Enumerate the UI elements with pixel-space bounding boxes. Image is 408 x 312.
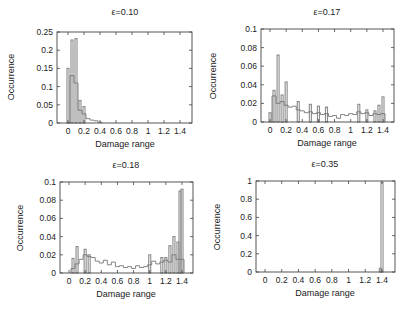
plot-area: 00.20.40.60.811.21.400.050.10.150.20.25 [36, 27, 192, 136]
x-tick-label: 1.2 [158, 126, 170, 136]
x-tick-label: 0.6 [313, 125, 325, 135]
x-tick-label: 0.2 [276, 275, 288, 285]
y-tick-label: 0.05 [36, 100, 53, 110]
x-axis-label: Damage range [295, 288, 355, 298]
x-tick-label: 0 [66, 126, 71, 136]
x-tick-label: 1.2 [359, 275, 371, 285]
x-tick-label: 1.2 [160, 276, 172, 286]
y-tick-label: 0.1 [44, 177, 56, 187]
x-tick-label: 1 [147, 276, 152, 286]
y-tick-label: 0.08 [39, 195, 56, 205]
y-tick-label: 0.02 [39, 250, 56, 260]
panel-eps-0-35: ε=0.35 Occurrence Damage range 00.20.40.… [212, 159, 395, 298]
y-axis-label: Occurrence [6, 54, 16, 101]
y-tick-label: 0.15 [36, 63, 53, 73]
x-tick-label: 0.2 [78, 126, 90, 136]
x-tick-label: 0.6 [112, 276, 124, 286]
x-tick-label: 0.6 [110, 126, 122, 136]
y-tick-label: 1 [247, 176, 252, 186]
panel-title: ε=0.18 [113, 160, 140, 170]
histogram-bar [309, 104, 311, 122]
panel-eps-0-10: ε=0.10 Occurrence Damage range 00.20.40.… [6, 7, 192, 149]
y-tick-label: 0.8 [240, 194, 252, 204]
y-axis-label: Occurrence [15, 205, 25, 252]
histogram-bar [358, 104, 360, 122]
x-tick-label: 1.4 [176, 276, 188, 286]
x-tick-label: 0.4 [293, 275, 305, 285]
y-axis-label: Occurrence [208, 53, 218, 100]
y-tick-label: 0.4 [240, 231, 252, 241]
histogram-bar [169, 246, 171, 273]
panel-eps-0-18: ε=0.18 Occurrence Damage range 00.20.40.… [15, 160, 193, 299]
panel-title: ε=0.17 [314, 7, 341, 17]
y-tick-label: 0.6 [240, 212, 252, 222]
y-axis-label: Occurrence [212, 204, 222, 251]
y-tick-label: 0.1 [41, 82, 53, 92]
histogram-bar [325, 107, 327, 122]
histogram-bar [379, 268, 381, 272]
x-tick-label: 0 [268, 125, 273, 135]
x-tick-label: 1.4 [376, 275, 388, 285]
histogram-bar [382, 97, 384, 122]
plot-area: 00.20.40.60.811.21.400.020.040.060.080.1 [39, 177, 193, 286]
x-tick-label: 0.4 [95, 276, 107, 286]
panel-title: ε=0.35 [312, 159, 339, 169]
x-tick-label: 1 [346, 275, 351, 285]
y-tick-label: 0.04 [39, 232, 56, 242]
y-tick-label: 0.2 [41, 45, 53, 55]
x-tick-label: 0.4 [94, 126, 106, 136]
y-tick-label: 0.06 [39, 213, 56, 223]
histogram-bar [79, 100, 81, 123]
histogram-bar [67, 68, 69, 123]
plot-area: 00.20.40.60.811.21.400.20.40.60.81 [240, 176, 395, 285]
histogram-bar [277, 55, 279, 122]
x-tick-label: 0.4 [296, 125, 308, 135]
x-tick-label: 0 [67, 276, 72, 286]
histogram-bar [374, 111, 376, 122]
x-tick-label: 1.4 [377, 125, 389, 135]
y-tick-label: 0 [51, 268, 56, 278]
x-axis-label: Damage range [95, 139, 155, 149]
x-tick-label: 0.8 [126, 126, 138, 136]
y-tick-label: 0.2 [240, 249, 252, 259]
x-tick-label: 1.4 [174, 126, 186, 136]
histogram-bar [285, 82, 287, 122]
histogram-bar [281, 95, 283, 122]
y-tick-label: 0 [48, 118, 53, 128]
x-tick-label: 0 [263, 275, 268, 285]
histogram-bar [378, 105, 380, 122]
histogram-bar [76, 247, 78, 273]
histogram-bar [88, 255, 90, 273]
y-tick-label: 0.04 [240, 80, 257, 90]
x-tick-label: 0.2 [280, 125, 292, 135]
figure-canvas: ε=0.10 Occurrence Damage range 00.20.40.… [0, 0, 408, 312]
histogram-bar [273, 90, 275, 122]
y-tick-label: 0.06 [240, 61, 257, 71]
histogram-bar [84, 249, 86, 273]
x-tick-label: 1.2 [361, 125, 373, 135]
plot-area: 00.20.40.60.811.21.400.020.040.060.080.1 [240, 24, 394, 135]
histogram-bar [71, 40, 73, 123]
y-tick-label: 0.02 [240, 98, 257, 108]
y-tick-label: 0.08 [240, 43, 257, 53]
histogram-bar [75, 39, 77, 123]
x-axis-label: Damage range [96, 289, 156, 299]
y-tick-label: 0 [252, 117, 257, 127]
plot-frame [256, 181, 395, 272]
histogram-bar [161, 258, 163, 273]
histogram-bar [381, 182, 383, 272]
x-tick-label: 0.2 [79, 276, 91, 286]
histogram-bar [297, 102, 299, 122]
x-tick-label: 0.8 [128, 276, 140, 286]
y-tick-label: 0 [247, 267, 252, 277]
histogram-bar [72, 258, 74, 273]
x-tick-label: 0.8 [329, 125, 341, 135]
x-tick-label: 0.6 [309, 275, 321, 285]
x-axis-label: Damage range [297, 138, 357, 148]
panel-title: ε=0.10 [112, 7, 139, 17]
y-tick-label: 0.1 [245, 24, 257, 34]
panel-eps-0-17: ε=0.17 Occurrence Damage range 00.20.40.… [208, 7, 394, 148]
x-tick-label: 1 [146, 126, 151, 136]
x-tick-label: 0.8 [326, 275, 338, 285]
y-tick-label: 0.25 [36, 27, 53, 37]
